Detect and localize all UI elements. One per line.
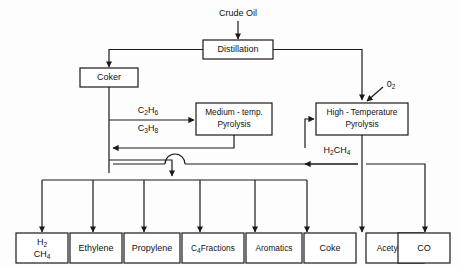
medium-pyrolysis-to-bus-line [109,160,172,176]
medium-temp-pyrolysis-label-line1: Medium - temp. [205,107,263,117]
ethane-stream-label: C2H6 [138,105,159,116]
medium-temp-pyrolysis-label-line2: Pyrolysis [217,119,250,129]
product-label-ethylene: Ethylene [78,243,113,253]
crude-oil-label: Crude Oil [219,8,257,18]
line-hop [165,154,185,164]
medium-pyrolysis-recycle-line [113,135,234,148]
high-pyrolysis-recycle-line [305,119,314,148]
coker-label: Coker [97,72,121,82]
distillation-label: Distillation [217,44,258,54]
product-label-coke: Coke [319,243,340,253]
high-pyrolysis-to-co-line [366,164,425,232]
hydrogen-methane-stream-label: H2CH4 [324,145,351,156]
high-temperature-pyrolysis-label-line2: Pyrolysis [345,119,378,129]
process-flow-diagram: Crude Oil Distillation Coker C2H6 C3H8 M… [0,0,459,268]
distillation-to-high-pyrolysis-line [273,50,362,101]
product-label-propylene: Propylene [132,243,173,253]
high-temperature-pyrolysis-label-line1: High - Temperature [327,107,398,117]
oxygen-feed-arrow [367,87,383,101]
flow-diagram-canvas: Crude Oil Distillation Coker C2H6 C3H8 M… [0,0,459,268]
oxygen-label: 02 [387,79,396,90]
product-label-aromatics: Aromatics [256,243,293,253]
distillation-to-coker-line [109,50,203,68]
propane-stream-label: C3H8 [138,123,159,134]
product-label-co: CO [417,243,431,253]
